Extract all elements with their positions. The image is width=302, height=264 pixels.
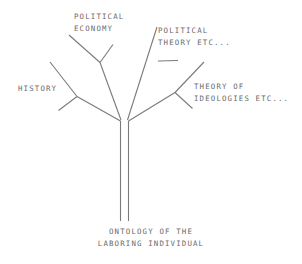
branch-label-history: HISTORY <box>18 83 57 95</box>
twig-political-theory-stub <box>158 61 178 62</box>
root-label: ONTOLOGY OF THE LABORING INDIVIDUAL <box>0 226 302 249</box>
branch-label-political-theory: POLITICAL THEORY ETC... <box>158 25 231 48</box>
branch-label-theory-of-ideologies-line1: THEORY OF <box>194 82 244 91</box>
tree-diagram: POLITICAL ECONOMY POLITICAL THEORY ETC..… <box>0 0 302 264</box>
twig-ideologies-lower <box>175 93 193 109</box>
branch-label-political-theory-line1: POLITICAL <box>158 26 208 35</box>
branch-label-political-economy-line2: ECONOMY <box>74 24 113 33</box>
branch-label-political-theory-line2: THEORY ETC... <box>158 38 231 47</box>
branch-label-theory-of-ideologies-line2: IDEOLOGIES ETC... <box>194 94 289 103</box>
twig-political-economy-left <box>69 35 100 63</box>
root-label-line2: LABORING INDIVIDUAL <box>98 239 204 248</box>
branch-label-theory-of-ideologies: THEORY OF IDEOLOGIES ETC... <box>194 81 289 104</box>
branch-label-political-economy: POLITICAL ECONOMY <box>74 11 124 34</box>
branch-label-political-economy-line1: POLITICAL <box>74 12 124 21</box>
root-label-line1: ONTOLOGY OF THE <box>109 227 193 236</box>
twig-history-lower <box>59 97 78 111</box>
limb-right-main <box>129 93 176 122</box>
twig-political-economy-right <box>100 45 113 63</box>
tree-branches-graphic <box>0 0 302 264</box>
branch-label-history-line1: HISTORY <box>18 84 57 93</box>
